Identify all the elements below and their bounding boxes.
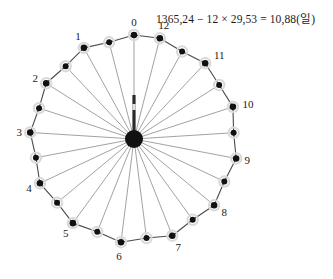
spoke-line xyxy=(134,85,219,139)
spoke-line xyxy=(109,42,134,139)
ring-label-1: 1 xyxy=(75,30,81,42)
ring-label-7: 7 xyxy=(176,241,182,253)
marker-dot xyxy=(144,235,150,241)
ring-label-3: 3 xyxy=(16,126,22,138)
marker-dot xyxy=(230,104,237,111)
ring-label-9: 9 xyxy=(244,154,250,166)
marker-dot xyxy=(216,82,222,88)
marker-dot xyxy=(106,39,112,45)
ring-label-2: 2 xyxy=(32,72,38,84)
marker-dot xyxy=(179,49,185,55)
marker-dot xyxy=(70,220,77,227)
spoke-line xyxy=(40,139,134,183)
ring-label-11: 11 xyxy=(214,49,225,61)
pointer-notch-icon xyxy=(132,104,135,110)
spoke-line xyxy=(134,139,214,205)
ring-label-4: 4 xyxy=(26,182,32,194)
marker-dot xyxy=(63,63,69,69)
pointer-needle xyxy=(132,95,135,131)
marker-dot xyxy=(81,45,88,52)
marker-dot xyxy=(211,202,218,209)
ring-label-12: 12 xyxy=(158,19,169,31)
equation-text: 1365,24 − 12 × 29,53 = 10,88(일) xyxy=(156,10,315,26)
marker-dot xyxy=(231,130,237,136)
marker-dot xyxy=(169,232,176,239)
spoke-line xyxy=(134,139,236,158)
spoke-line xyxy=(36,139,134,158)
spoke-line xyxy=(134,139,224,182)
marker-dot xyxy=(37,180,44,187)
marker-dot xyxy=(94,229,100,235)
ring-label-0: 0 xyxy=(131,16,137,28)
marker-dot xyxy=(190,217,196,223)
spoke-line xyxy=(134,38,160,139)
spoke-line xyxy=(46,83,134,139)
lunar-calendar-wheel xyxy=(0,0,333,279)
ring-label-6: 6 xyxy=(116,250,122,262)
ring-label-8: 8 xyxy=(221,206,227,218)
marker-dot xyxy=(221,179,227,185)
marker-dot xyxy=(118,239,125,246)
marker-dot xyxy=(157,35,164,42)
center-hub xyxy=(125,130,143,148)
marker-dot xyxy=(43,80,50,87)
spoke-line xyxy=(30,132,134,139)
spoke-line xyxy=(57,139,134,203)
spoke-line xyxy=(134,133,234,139)
marker-dot xyxy=(202,60,209,67)
ring-label-5: 5 xyxy=(63,227,69,239)
marker-dot xyxy=(27,129,34,136)
marker-dot xyxy=(131,32,138,39)
marker-dot xyxy=(233,155,240,162)
figure-canvas: 1365,24 − 12 × 29,53 = 10,88(일) 01211109… xyxy=(0,0,333,279)
marker-dot xyxy=(36,105,42,111)
marker-dot xyxy=(54,200,60,206)
marker-dot xyxy=(33,155,39,161)
ring-label-10: 10 xyxy=(242,98,253,110)
